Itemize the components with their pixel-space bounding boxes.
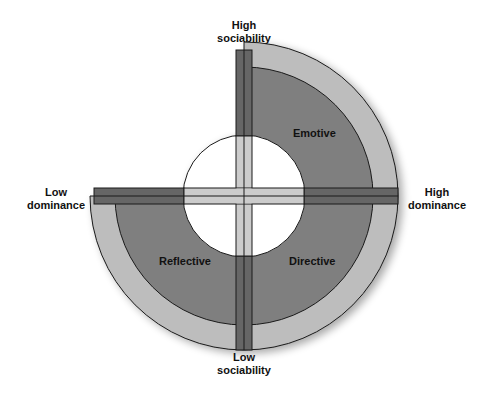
axis-label-bottom: Low sociability xyxy=(204,351,284,377)
axis-label-right-line2: dominance xyxy=(398,199,476,212)
axis-label-top-line1: High xyxy=(204,19,284,32)
axis-label-left: Low dominance xyxy=(20,186,92,212)
axis-label-top: High sociability xyxy=(204,19,284,45)
quadrant-label-directive: Directive xyxy=(289,255,335,267)
axis-label-right: High dominance xyxy=(398,186,476,212)
quadrant-label-reflective: Reflective xyxy=(159,255,211,267)
quadrant-label-emotive: Emotive xyxy=(293,127,336,139)
axis-label-bottom-line2: sociability xyxy=(204,364,284,377)
axis-label-left-line1: Low xyxy=(20,186,92,199)
axis-label-right-line1: High xyxy=(398,186,476,199)
axis-label-bottom-line1: Low xyxy=(204,351,284,364)
axis-label-left-line2: dominance xyxy=(20,199,92,212)
axis-label-top-line2: sociability xyxy=(204,32,284,45)
